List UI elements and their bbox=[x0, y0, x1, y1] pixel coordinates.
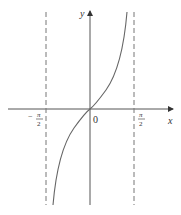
denominator: 2 bbox=[37, 120, 41, 128]
denominator: 2 bbox=[139, 120, 143, 128]
pi-numerator: π bbox=[37, 111, 41, 119]
tangent-graph: y x 0 − π 2 π 2 bbox=[0, 0, 181, 215]
minus-sign: − bbox=[28, 112, 33, 121]
origin-label: 0 bbox=[93, 114, 98, 125]
right-asymptote-label: π 2 bbox=[138, 111, 145, 128]
pi-numerator: π bbox=[139, 111, 143, 119]
y-axis-label: y bbox=[79, 8, 85, 19]
left-asymptote-label: − π 2 bbox=[28, 111, 43, 128]
x-axis-label: x bbox=[167, 115, 173, 126]
